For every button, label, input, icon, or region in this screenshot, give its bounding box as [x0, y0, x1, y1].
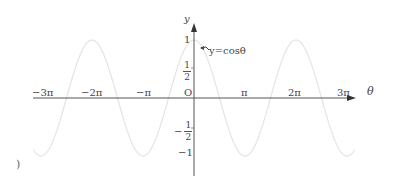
neg-half-denominator: 2 — [186, 133, 192, 142]
x-tick-neg-pi: −π — [136, 88, 151, 98]
stray-parenthesis: ) — [16, 159, 20, 170]
neg-half-fraction: 1 2 — [184, 121, 192, 142]
y-tick-1: 1 — [184, 35, 190, 45]
x-tick-pi: π — [241, 88, 248, 98]
y-axis-arrow-icon — [191, 23, 197, 32]
x-tick-neg-3pi: −3π — [32, 88, 53, 98]
half-denominator: 2 — [184, 73, 190, 82]
y-tick-half: 1 2 — [183, 61, 191, 82]
x-tick-3pi: 3π — [337, 88, 350, 98]
x-tick-neg-2pi: −2π — [81, 88, 102, 98]
neg-half-numerator: 1 — [186, 121, 192, 130]
y-tick-neg-half: − 1 2 — [174, 121, 192, 142]
minus-sign: − — [174, 126, 182, 137]
y-axis-label: y — [184, 14, 190, 24]
origin-label: O — [184, 88, 192, 98]
curve-label: y=cosθ — [209, 46, 246, 56]
x-axis-label: θ — [367, 86, 374, 97]
y-tick-neg-1: −1 — [178, 148, 193, 158]
x-tick-2pi: 2π — [288, 88, 301, 98]
half-numerator: 1 — [184, 61, 190, 70]
